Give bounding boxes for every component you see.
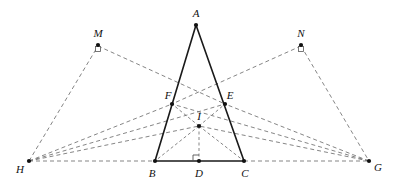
vertex-dot-A bbox=[194, 23, 198, 27]
vertex-dot-E bbox=[223, 102, 227, 106]
segment-NG bbox=[301, 46, 369, 161]
point-label-A: A bbox=[193, 8, 200, 19]
vertex-dot-D bbox=[197, 159, 201, 163]
point-label-D: D bbox=[195, 168, 203, 179]
vertex-dot-N bbox=[299, 43, 303, 47]
segment-GF bbox=[172, 104, 369, 161]
point-label-I: I bbox=[197, 111, 201, 122]
vertex-dot-G bbox=[367, 159, 371, 163]
point-label-B: B bbox=[149, 168, 156, 179]
segment-IE bbox=[199, 104, 225, 126]
vertex-dot-F bbox=[170, 102, 174, 106]
segment-GE bbox=[225, 104, 369, 161]
vertex-dot-B bbox=[153, 159, 157, 163]
segment-HF bbox=[29, 104, 172, 161]
point-label-M: M bbox=[93, 28, 102, 39]
segment-AB bbox=[155, 25, 196, 161]
right-angle-mark-N bbox=[299, 47, 304, 52]
segment-HM bbox=[29, 46, 98, 161]
point-label-C: C bbox=[241, 168, 248, 179]
segment-IF bbox=[172, 104, 199, 126]
point-label-H: H bbox=[16, 164, 24, 175]
segment-NF bbox=[172, 46, 301, 104]
point-label-N: N bbox=[297, 28, 304, 39]
vertex-dots-group bbox=[27, 23, 371, 163]
point-label-G: G bbox=[374, 162, 382, 173]
vertex-dot-C bbox=[242, 159, 246, 163]
dashed-edges-group bbox=[29, 46, 369, 161]
segment-AC bbox=[196, 25, 244, 161]
geometry-figure: A M N F E I H B D C G bbox=[0, 0, 393, 195]
right-angle-mark-M bbox=[96, 47, 101, 52]
vertex-dot-M bbox=[96, 43, 100, 47]
vertex-dot-I bbox=[197, 124, 201, 128]
point-label-F: F bbox=[165, 90, 172, 101]
segment-HI bbox=[29, 126, 199, 161]
vertex-dot-H bbox=[27, 159, 31, 163]
segment-GI bbox=[199, 126, 369, 161]
point-label-E: E bbox=[227, 90, 234, 101]
right-angle-marks-group bbox=[96, 47, 304, 162]
segment-IB bbox=[155, 126, 199, 161]
